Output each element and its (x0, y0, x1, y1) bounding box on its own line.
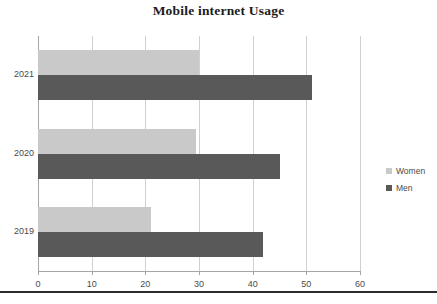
y-tick-label-2020: 2020 (2, 148, 34, 158)
x-tick-mark-0 (38, 271, 39, 275)
legend: WomenMen (386, 164, 425, 198)
legend-item-men[interactable]: Men (386, 181, 425, 194)
gridline-60 (360, 36, 361, 271)
legend-label-men: Men (396, 183, 413, 193)
bar-men-2019 (38, 232, 263, 257)
x-tick-label-50: 50 (286, 279, 326, 289)
y-tick-label-2019: 2019 (2, 226, 34, 236)
legend-swatch-women-icon (386, 168, 392, 174)
x-tick-label-60: 60 (340, 279, 380, 289)
plot-area (38, 36, 360, 271)
x-tick-mark-20 (145, 271, 146, 275)
bar-women-2021 (38, 50, 199, 75)
x-tick-mark-60 (360, 271, 361, 275)
x-tick-mark-40 (253, 271, 254, 275)
bottom-divider (0, 291, 437, 293)
x-tick-mark-10 (92, 271, 93, 275)
bar-women-2019 (38, 207, 151, 232)
legend-item-women[interactable]: Women (386, 164, 425, 177)
x-tick-label-10: 10 (72, 279, 112, 289)
chart-figure: Mobile internet Usage 0102030405060 2021… (0, 0, 437, 304)
chart-title: Mobile internet Usage (0, 3, 437, 19)
x-tick-label-30: 30 (179, 279, 219, 289)
bar-men-2021 (38, 75, 312, 100)
bar-women-2020 (38, 129, 196, 154)
x-tick-label-40: 40 (233, 279, 273, 289)
x-tick-mark-50 (306, 271, 307, 275)
legend-swatch-men-icon (386, 185, 392, 191)
x-tick-label-0: 0 (18, 279, 58, 289)
gridline-50 (306, 36, 307, 271)
bar-men-2020 (38, 154, 280, 179)
y-tick-label-2021: 2021 (2, 69, 34, 79)
legend-label-women: Women (396, 166, 425, 176)
x-tick-mark-30 (199, 271, 200, 275)
x-tick-label-20: 20 (125, 279, 165, 289)
